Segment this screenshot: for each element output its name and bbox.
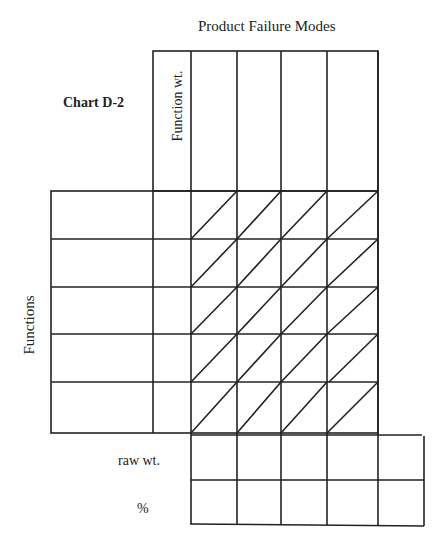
matrix-grid [0, 0, 446, 548]
diagonal-splits [191, 191, 378, 433]
header-block [153, 51, 378, 191]
functions-block [51, 191, 378, 433]
